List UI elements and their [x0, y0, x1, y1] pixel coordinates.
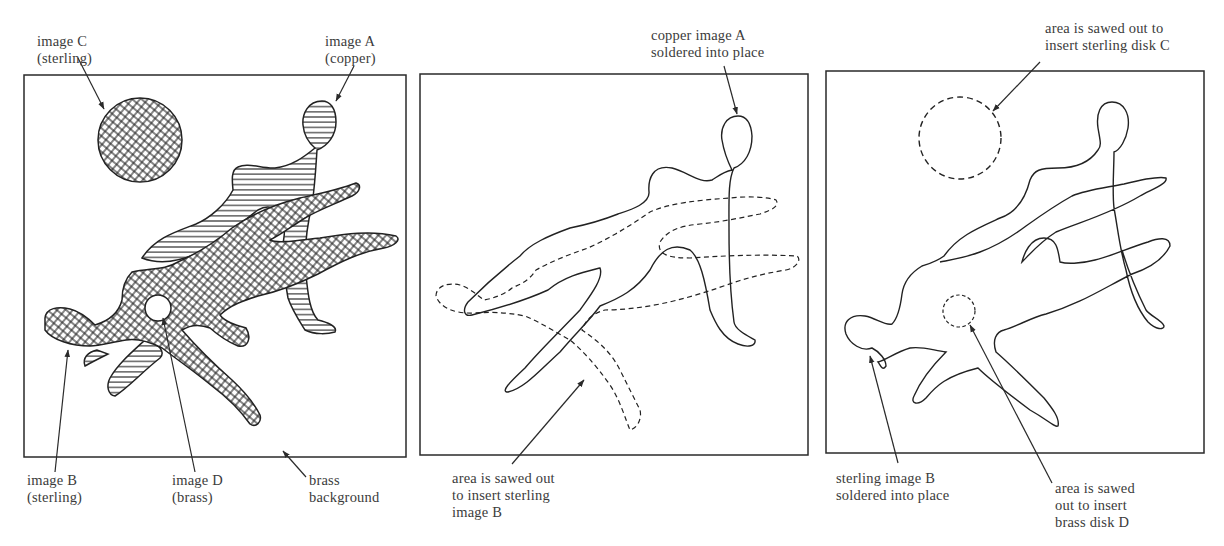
arrow-image-b [55, 350, 68, 472]
figure-a-copper-limbs [84, 340, 162, 396]
arrow-sawed-c [993, 62, 1040, 111]
figure-b-cutout-dashed [436, 197, 799, 430]
arrow-sawed-d [970, 325, 1052, 483]
label-image-c: image C (sterling) [37, 33, 92, 67]
panel-1 [24, 58, 406, 477]
arrow-sterling-b [870, 356, 898, 463]
label-sawed-out-b: area is sawed out to insert sterling ima… [452, 470, 555, 521]
figure-combined-outline [845, 102, 1170, 426]
panel-3 [826, 62, 1204, 483]
hole-d-brass [145, 295, 171, 321]
label-sawed-out-d: area is sawed out to insert brass disk D [1055, 480, 1135, 531]
arrow-background [283, 451, 306, 477]
disk-c-cutout-dashed [919, 97, 1001, 179]
label-sawed-out-c: area is sawed out to insert sterling dis… [1045, 20, 1170, 54]
label-image-a: image A (copper) [325, 33, 376, 67]
label-brass-background: brass background [309, 472, 379, 506]
label-image-d: image D (brass) [172, 472, 223, 506]
label-copper-a-soldered: copper image A soldered into place [651, 27, 764, 61]
panel-2-frame [420, 74, 808, 455]
disk-d-cutout-dashed [943, 295, 975, 327]
arrow-image-a [336, 66, 354, 101]
panel-2 [420, 66, 808, 464]
arrow-copper-a [724, 66, 737, 114]
diagram-canvas [0, 0, 1224, 546]
label-image-b: image B (sterling) [27, 472, 82, 506]
label-sterling-b-soldered: sterling image B soldered into place [836, 470, 949, 504]
panel-3-frame [826, 71, 1204, 453]
disk-c-sterling [98, 98, 182, 182]
figure-a-outline [465, 116, 756, 392]
arrow-sawed-b [512, 380, 584, 464]
